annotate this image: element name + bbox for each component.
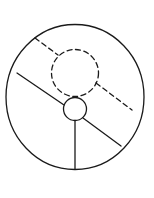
- solid-line-left: [17, 73, 64, 105]
- dashed-circle: [52, 50, 99, 97]
- solid-line-right: [83, 118, 121, 146]
- geometry-diagram: [0, 0, 154, 198]
- dashed-line-upper: [35, 38, 58, 55]
- small-circle: [64, 98, 87, 121]
- dashed-line-lower: [96, 83, 132, 110]
